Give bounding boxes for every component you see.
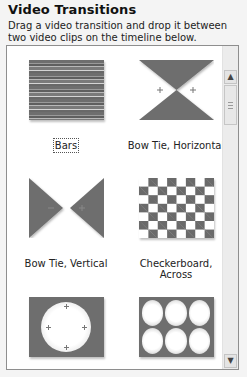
scrollbar-thumb[interactable]: [224, 85, 237, 125]
transitions-list[interactable]: Bars Bow Tie, Horizontal: [6, 45, 239, 370]
chevron-down-icon: ▼: [227, 357, 233, 365]
circle-transition-icon: [29, 297, 104, 357]
transition-item-bow-tie-vertical[interactable]: Bow Tie, Vertical: [11, 178, 121, 271]
bow-tie-horizontal-icon: [139, 60, 214, 120]
vertical-scrollbar[interactable]: ▲ ▼: [222, 46, 238, 369]
checkerboard-across-icon: [139, 178, 214, 238]
transition-item-bow-tie-horizontal[interactable]: Bow Tie, Horizontal: [121, 60, 231, 153]
scroll-down-button[interactable]: ▼: [224, 354, 237, 368]
panel-title: Video Transitions: [8, 2, 136, 17]
bow-tie-vertical-icon: [29, 178, 104, 238]
transition-label: Bow Tie, Vertical: [23, 256, 110, 271]
scroll-up-button[interactable]: ▲: [224, 70, 237, 84]
chevron-up-icon: ▲: [227, 73, 233, 81]
transition-label: Bars: [53, 138, 79, 153]
transition-label: Bow Tie, Horizontal: [126, 138, 226, 153]
transition-item-circles[interactable]: [121, 297, 231, 370]
transition-label: Checkerboard, Across: [121, 256, 231, 282]
transition-item-bars[interactable]: Bars: [11, 60, 121, 153]
bars-transition-icon: [29, 60, 104, 120]
transition-item-circle[interactable]: [11, 297, 121, 370]
circles-transition-icon: [139, 297, 214, 357]
transition-item-checkerboard-across[interactable]: Checkerboard, Across: [121, 178, 231, 282]
panel-description: Drag a video transition and drop it betw…: [8, 20, 244, 44]
